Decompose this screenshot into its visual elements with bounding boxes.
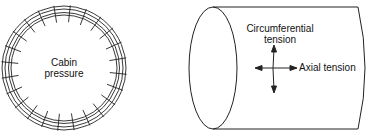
tension-arrows — [255, 45, 297, 93]
circumferential-label-line2: tension — [240, 34, 320, 45]
cabin-label-line1: Cabin — [34, 57, 94, 68]
cabin-label-line2: pressure — [34, 68, 94, 79]
axial-tension-label: Axial tension — [299, 62, 356, 73]
circumferential-label-line1: Circumferential — [240, 23, 320, 34]
